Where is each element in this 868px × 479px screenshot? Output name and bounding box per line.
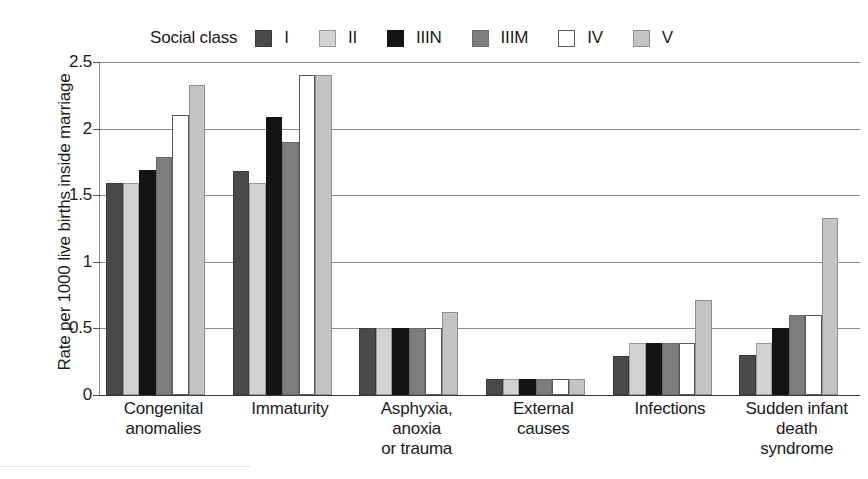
x-label-line: anoxia <box>343 419 490 439</box>
legend-item-iiim[interactable]: IIIM <box>472 28 529 48</box>
bar-group <box>233 62 332 395</box>
legend-swatch-iiim <box>472 30 489 47</box>
plot-area <box>100 62 860 395</box>
legend-swatch-iiin <box>387 30 404 47</box>
bar-group <box>739 62 838 395</box>
bar[interactable] <box>503 379 520 395</box>
bar-group <box>106 62 205 395</box>
y-tick-mark <box>93 129 100 130</box>
bar[interactable] <box>629 343 646 395</box>
page-hairline <box>0 466 250 467</box>
bar[interactable] <box>189 85 206 395</box>
bar-group <box>613 62 712 395</box>
y-tick-label: 0 <box>52 385 92 405</box>
x-label-line: Sudden infant <box>723 399 868 419</box>
x-category-label: Congenitalanomalies <box>90 399 237 439</box>
x-category-label: Infections <box>597 399 744 419</box>
x-label-line: or trauma <box>343 439 490 459</box>
bar[interactable] <box>805 315 822 395</box>
legend-label-iiim: IIIM <box>501 28 529 48</box>
legend-label-ii: II <box>348 28 357 48</box>
bar[interactable] <box>156 157 173 395</box>
bar[interactable] <box>613 356 630 395</box>
bar[interactable] <box>282 142 299 395</box>
bar[interactable] <box>376 328 393 395</box>
bar[interactable] <box>442 312 459 395</box>
bar[interactable] <box>519 379 536 395</box>
legend-label-iiin: IIIN <box>416 28 442 48</box>
bar-group <box>486 62 585 395</box>
y-tick-label: 2 <box>52 119 92 139</box>
legend-swatch-v <box>633 30 650 47</box>
bar[interactable] <box>536 379 553 395</box>
x-label-line: Congenital <box>90 399 237 419</box>
bar[interactable] <box>569 379 586 395</box>
bar[interactable] <box>139 170 156 395</box>
bar[interactable] <box>409 328 426 395</box>
x-label-line: anomalies <box>90 419 237 439</box>
legend-item-iv[interactable]: IV <box>558 28 603 48</box>
x-label-line: Infections <box>597 399 744 419</box>
bar[interactable] <box>315 75 332 395</box>
y-tick-mark <box>93 262 100 263</box>
bar[interactable] <box>233 171 250 395</box>
x-category-label: Externalcauses <box>470 399 617 439</box>
legend-item-iiin[interactable]: IIIN <box>387 28 442 48</box>
legend-item-v[interactable]: V <box>633 28 673 48</box>
legend-title: Social class <box>150 28 237 48</box>
chart-legend: Social class I II IIIN IIIM IV V <box>150 27 703 49</box>
bar[interactable] <box>486 379 503 395</box>
bar[interactable] <box>249 183 266 395</box>
bar[interactable] <box>756 343 773 395</box>
legend-item-i[interactable]: I <box>255 28 289 48</box>
legend-swatch-iv <box>558 30 575 47</box>
bar[interactable] <box>552 379 569 395</box>
legend-swatch-i <box>255 30 272 47</box>
bar[interactable] <box>392 328 409 395</box>
bar[interactable] <box>425 328 442 395</box>
bar[interactable] <box>679 343 696 395</box>
bar[interactable] <box>106 183 123 395</box>
bar[interactable] <box>822 218 839 395</box>
bar[interactable] <box>299 75 316 395</box>
bar[interactable] <box>662 343 679 395</box>
legend-swatch-ii <box>319 30 336 47</box>
x-category-label: Immaturity <box>217 399 364 419</box>
bar[interactable] <box>123 183 140 395</box>
x-label-line: syndrome <box>723 439 868 459</box>
bar[interactable] <box>646 343 663 395</box>
x-label-line: External <box>470 399 617 419</box>
y-tick-mark <box>93 195 100 196</box>
bar[interactable] <box>359 328 376 395</box>
bar[interactable] <box>172 115 189 395</box>
bar[interactable] <box>266 117 283 395</box>
bar[interactable] <box>789 315 806 395</box>
legend-label-v: V <box>662 28 673 48</box>
x-axis-line <box>99 395 860 396</box>
bar[interactable] <box>695 300 712 395</box>
y-tick-mark <box>93 62 100 63</box>
x-label-line: Immaturity <box>217 399 364 419</box>
legend-item-ii[interactable]: II <box>319 28 357 48</box>
legend-label-iv: IV <box>587 28 603 48</box>
y-tick-label: 1.5 <box>52 185 92 205</box>
y-tick-label: 1 <box>52 252 92 272</box>
x-category-label: Asphyxia,anoxiaor trauma <box>343 399 490 459</box>
legend-label-i: I <box>284 28 289 48</box>
bar[interactable] <box>772 328 789 395</box>
y-tick-mark <box>93 395 100 396</box>
x-category-label: Sudden infantdeathsyndrome <box>723 399 868 459</box>
y-axis-line <box>99 62 100 396</box>
x-label-line: causes <box>470 419 617 439</box>
bar-group <box>359 62 458 395</box>
y-axis-tick-labels: 00.511.522.5 <box>48 62 92 395</box>
y-tick-label: 0.5 <box>52 318 92 338</box>
x-label-line: Asphyxia, <box>343 399 490 419</box>
y-tick-mark <box>93 328 100 329</box>
x-label-line: death <box>723 419 868 439</box>
y-tick-label: 2.5 <box>52 52 92 72</box>
bar[interactable] <box>739 355 756 395</box>
chart-figure: Social class I II IIIN IIIM IV V Rate pe… <box>0 0 868 479</box>
